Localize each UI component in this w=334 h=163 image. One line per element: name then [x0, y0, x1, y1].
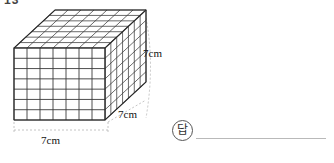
- front-face: [14, 48, 105, 120]
- front-face-outline: [14, 48, 105, 120]
- answer-input-line[interactable]: [196, 138, 326, 139]
- dimension-label-width: 7cm: [41, 134, 60, 146]
- guide-height-right: [146, 18, 151, 118]
- circled-answer-icon: 답: [172, 120, 193, 141]
- dimension-label-depth: 7cm: [118, 108, 137, 120]
- worksheet-page: 13: [0, 0, 334, 163]
- answer-area: 답: [169, 118, 329, 148]
- dimension-label-height: 7cm: [143, 47, 162, 59]
